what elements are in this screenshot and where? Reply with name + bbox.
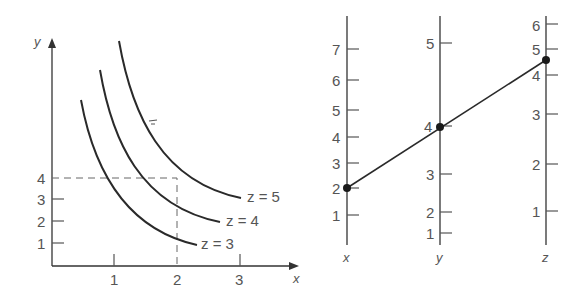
y-tick-4: 4 xyxy=(37,170,45,187)
point-z xyxy=(542,56,550,64)
x-tick-2: 2 xyxy=(173,271,181,288)
y-scale-tick-1: 1 xyxy=(426,225,434,242)
x-scale-tick-5: 5 xyxy=(332,102,340,119)
y-tick-2: 2 xyxy=(37,213,45,230)
z-scale-tick-4: 4 xyxy=(532,67,540,84)
x-scale-tick-1: 1 xyxy=(332,207,340,224)
x-axis-label: x xyxy=(292,271,300,286)
y-scale-tick-3: 3 xyxy=(426,166,434,183)
y-scale-label: y xyxy=(435,250,444,265)
y-tick-1: 1 xyxy=(37,235,45,252)
x-scale-tick-3: 3 xyxy=(332,155,340,172)
index-line xyxy=(347,60,546,188)
x-tick-3: 3 xyxy=(235,271,243,288)
y-scale-tick-4: 4 xyxy=(424,118,432,135)
x-scale-tick-7: 7 xyxy=(332,41,340,58)
guide-dashed-line xyxy=(52,178,177,266)
x-axis-arrow-icon xyxy=(289,262,299,270)
y-axis-label: y xyxy=(33,34,42,49)
x-scale-tick-6: 6 xyxy=(332,72,340,89)
z-scale-tick-6: 6 xyxy=(532,17,540,34)
z-scale-tick-3: 3 xyxy=(532,106,540,123)
x-scale-tick-2: 2 xyxy=(332,180,340,197)
curve-label-z3: z = 3 xyxy=(201,235,234,252)
curve-z5 xyxy=(119,41,241,198)
contour-plot: y x 1 2 3 4 1 2 3 z = 3 z = 4 z = 5 xyxy=(33,34,300,288)
point-x xyxy=(343,184,351,192)
x-tick-1: 1 xyxy=(110,271,118,288)
nomogram: 1 2 3 4 5 6 7 x 1 2 3 4 5 y 1 2 3 4 5 6 … xyxy=(332,16,558,265)
curve-label-z5: z = 5 xyxy=(247,188,280,205)
y-axis-arrow-icon xyxy=(48,38,56,48)
y-tick-3: 3 xyxy=(37,191,45,208)
x-scale-tick-4: 4 xyxy=(332,129,340,146)
z-scale-tick-5: 5 xyxy=(532,41,540,58)
diagram-canvas: y x 1 2 3 4 1 2 3 z = 3 z = 4 z = 5 xyxy=(0,0,584,299)
x-scale-label: x xyxy=(342,250,350,265)
z-scale-label: z xyxy=(541,250,549,265)
curve-z4 xyxy=(100,70,220,222)
y-scale-tick-2: 2 xyxy=(426,204,434,221)
y-scale-tick-5: 5 xyxy=(426,35,434,52)
z-scale-tick-2: 2 xyxy=(532,156,540,173)
point-y xyxy=(436,123,444,131)
z-scale-tick-1: 1 xyxy=(532,203,540,220)
curve-label-z4: z = 4 xyxy=(226,212,259,229)
